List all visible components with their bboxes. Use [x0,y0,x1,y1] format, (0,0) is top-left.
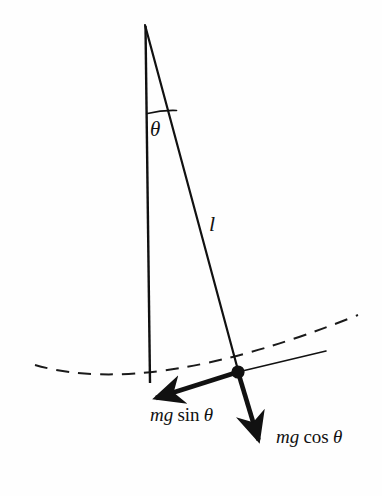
vertical-reference-line [146,26,151,383]
string-length-label: l [209,213,215,235]
force-tangential-arrow [156,372,238,398]
mgsin-function: sin [177,404,199,425]
force-radial-arrow [238,372,259,440]
mgcos-prefix: mg [276,426,299,447]
mgcos-function: cos [303,426,328,447]
angle-theta-label: θ [150,119,160,140]
pendulum-string [145,25,239,372]
force-tangential-label: mgsinθ [150,405,213,424]
pendulum-bob [231,365,244,378]
mgcos-angle: θ [333,426,342,447]
mgsin-angle: θ [204,404,213,425]
tangent-line [238,351,326,372]
mgsin-prefix: mg [150,404,173,425]
pendulum-figure: θ l mgsinθ mgcosθ [0,0,382,496]
angle-arc [148,110,177,113]
force-radial-label: mgcosθ [276,427,342,446]
swing-path-arc [35,315,358,374]
